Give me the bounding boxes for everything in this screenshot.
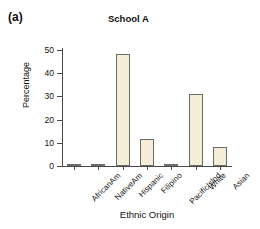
x-axis-tick [123,166,124,170]
y-axis-tick-label: 40 [32,68,54,78]
x-axis-category-label: White [207,171,228,192]
x-axis-tick [220,166,221,170]
x-axis-category-label: Asian [231,171,252,192]
y-axis-tick-label: 30 [32,91,54,101]
y-axis-tick-label-wrap: 50 [32,50,54,51]
bar [67,164,81,166]
y-axis-tick-label: 10 [32,137,54,147]
y-axis-tick [57,120,62,121]
y-axis-tick-label-wrap: 10 [32,143,54,144]
x-axis-tick [147,166,148,170]
figure-panel: (a) School A 01020304050 AfricanAmNative… [0,0,260,229]
y-axis-tick-label: 50 [32,45,54,55]
x-axis-tick [196,166,197,170]
y-axis-tick [57,166,62,167]
x-axis-tick [171,166,172,170]
plot-area: 01020304050 AfricanAmNativeAmHispanicFil… [0,0,260,229]
bar [189,94,203,166]
y-axis-tick [57,50,62,51]
y-axis-title: Percentage [21,50,31,120]
y-axis-tick-label: 0 [32,161,54,171]
bar [116,54,130,166]
x-axis-title: Ethnic Origin [62,209,232,220]
bar [164,164,178,166]
x-axis-tick [74,166,75,170]
bar [140,139,154,166]
y-axis-tick-label: 20 [32,114,54,124]
bar [213,147,227,166]
y-axis-tick [57,73,62,74]
y-axis-tick [57,143,62,144]
y-axis-tick [57,96,62,97]
y-axis-tick-label-wrap: 40 [32,73,54,74]
bar [91,164,105,166]
x-axis-tick [98,166,99,170]
y-axis-line [62,48,63,167]
y-axis-tick-label-wrap: 20 [32,120,54,121]
y-axis-tick-label-wrap: 30 [32,96,54,97]
y-axis-tick-label-wrap: 0 [32,166,54,167]
